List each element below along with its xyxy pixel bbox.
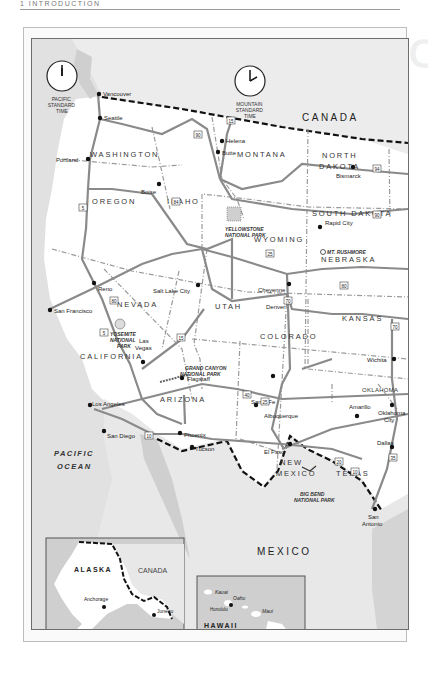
mountain-clock-icon [235, 66, 265, 96]
city-albuquerque: Albuquerque [264, 413, 299, 419]
canada-label: CANADA [302, 112, 359, 123]
ocean-label-2: OCEAN [57, 462, 92, 471]
yosemite-icon [115, 319, 125, 329]
state-colorado: COLORADO [260, 332, 317, 341]
state-kansas: KANSAS [342, 314, 383, 323]
city-portland: Portland [56, 157, 78, 163]
park-rushmore: MT. RUSHMORE [327, 249, 366, 255]
park-grand-canyon-2: NATIONAL PARK [180, 371, 221, 377]
running-head: 1 INTRODUCTION [20, 0, 101, 7]
city-los-angeles: Los Angeles [92, 401, 125, 407]
alaska-inset [46, 538, 184, 629]
svg-text:25: 25 [267, 252, 273, 257]
hawaii-island-maui: Maui [262, 608, 274, 614]
city-san-diego: San Diego [107, 433, 136, 439]
hawaii-island-oahu: Oahu [233, 595, 245, 601]
svg-text:70: 70 [392, 325, 398, 330]
svg-text:94: 94 [374, 167, 380, 172]
city-wichita: Wichita [367, 357, 387, 363]
park-big-bend-2: NATIONAL PARK [294, 497, 335, 503]
svg-text:15: 15 [178, 336, 184, 341]
city-reno: Reno [98, 286, 113, 292]
state-new-mexico-1: NEW [280, 458, 303, 467]
alaska-city-juneau: Juneau [157, 608, 174, 614]
city-amarillo: Amarillo [349, 404, 371, 410]
svg-text:84: 84 [173, 200, 179, 205]
city-las-vegas-1: Las [139, 338, 149, 344]
city-salt-lake-city: Salt Lake City [153, 288, 190, 294]
svg-text:10: 10 [146, 434, 152, 439]
state-oklahoma: OKLAHOMA [362, 387, 398, 393]
header-rule [20, 9, 400, 10]
state-utah: UTAH [215, 302, 242, 311]
city-boise: Boise [141, 189, 157, 195]
city-helena: Helena [226, 138, 246, 144]
hawaii-city-honolulu: Honolulu [210, 607, 228, 612]
svg-text:35: 35 [390, 456, 396, 461]
park-yosemite-3: PARK [117, 343, 131, 349]
state-oregon: OREGON [92, 197, 136, 206]
city-san-antonio-1: San [368, 514, 379, 520]
city-san-antonio-2: Antonio [362, 521, 383, 527]
city-seattle: Seattle [104, 115, 123, 121]
gulf-of-mexico [372, 509, 408, 629]
svg-text:90: 90 [195, 133, 201, 138]
state-arizona: ARIZONA [160, 395, 206, 404]
state-california: CALIFORNIA [80, 352, 143, 361]
yellowstone-icon [227, 207, 241, 221]
svg-text:25: 25 [262, 400, 268, 405]
svg-text:80: 80 [111, 299, 117, 304]
pacific-clock-icon [47, 61, 77, 91]
city-san-francisco: San Francisco [54, 308, 93, 314]
state-new-mexico-2: MEXICO [276, 469, 316, 478]
svg-text:70: 70 [285, 299, 291, 304]
city-denver: Denver [266, 304, 285, 310]
state-washington: WASHINGTON [90, 150, 159, 159]
svg-text:20: 20 [336, 460, 342, 465]
state-nebraska: NEBRASKA [321, 255, 376, 264]
hawaii-title: HAWAII [204, 622, 238, 629]
city-el-paso: El Paso [264, 449, 285, 455]
city-tucson: Tucson [195, 446, 214, 452]
city-oklahoma-city-2: City [384, 417, 394, 423]
mexico-label: MEXICO [257, 546, 311, 557]
hawaii-island-kauai: Kauai [215, 589, 229, 595]
city-butte: Butte [222, 150, 237, 156]
city-rapid-city: Rapid City [325, 220, 353, 226]
western-us-map: PACIFIC STANDARD TIME MOUNTAIN STANDARD … [31, 38, 409, 630]
city-las-vegas-2: Vegas [135, 345, 152, 351]
city-oklahoma-city-1: Oklahoma [378, 410, 406, 416]
svg-text:90: 90 [374, 213, 380, 218]
svg-text:10: 10 [352, 470, 358, 475]
svg-text:80: 80 [341, 284, 347, 289]
state-nevada: NEVADA [117, 300, 158, 309]
svg-text:15: 15 [228, 119, 234, 124]
city-phoenix: Phoenix [184, 432, 206, 438]
park-yellowstone-2: NATIONAL PARK [225, 232, 266, 238]
city-cheyenne: Cheyenne [258, 287, 286, 293]
alaska-canada-label: CANADA [138, 567, 168, 574]
svg-text:40: 40 [244, 393, 250, 398]
ocean-label-1: PACIFIC [54, 449, 94, 458]
state-montana: MONTANA [237, 150, 287, 159]
city-vancouver: Vancouver [103, 91, 131, 97]
city-bismarck: Bismarck [336, 173, 362, 179]
alaska-city-anchorage: Anchorage [84, 596, 108, 602]
state-north-dakota-1: NORTH [322, 151, 358, 160]
alaska-title: ALASKA [74, 566, 112, 573]
city-dallas: Dallas [377, 440, 394, 446]
